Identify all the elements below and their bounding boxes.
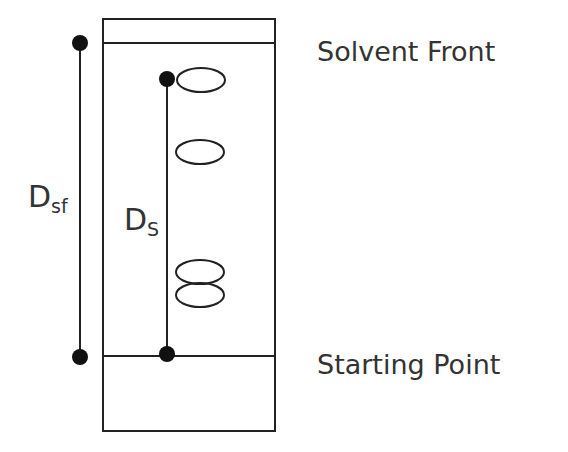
ds-top-dot [159,71,175,87]
solvent-front-label: Solvent Front [317,38,495,65]
spot-3 [176,260,224,284]
tlc-diagram [0,0,568,452]
spot-1 [177,68,225,92]
dsf-label: Dsf [28,182,68,216]
spot-2 [176,140,224,164]
dsf-top-dot [72,35,88,51]
spot-4 [176,283,224,307]
ds-bottom-dot [159,346,175,362]
dsf-bottom-dot [72,349,88,365]
starting-point-label: Starting Point [317,351,500,378]
ds-label: DS [124,205,159,239]
